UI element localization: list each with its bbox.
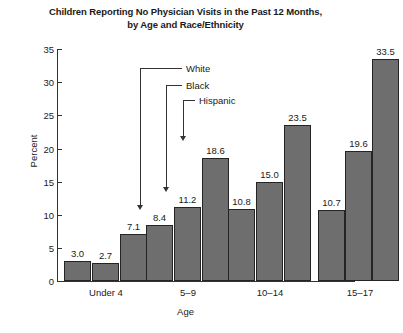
x-category-label-10-14: 10–14 [230,287,310,298]
bar-5-9-black [174,207,201,281]
bar-value-15-17-hispanic: 33.5 [367,46,403,57]
chart-title: Children Reporting No Physician Visits i… [0,5,371,31]
bar-value-5-9-white: 8.4 [141,212,178,223]
x-category-label-15-17: 15–17 [320,287,400,298]
annotation-arrow-white [137,205,143,210]
bar-5-9-white [146,225,173,281]
y-tick-label-0: 0 [28,276,54,287]
bar-10-14-white [228,209,255,281]
chart-title-line-1: Children Reporting No Physician Visits i… [0,5,371,18]
bar-value-10-14-black: 15.0 [251,169,288,180]
annotation-line-white-horizontal [140,68,182,69]
y-tick-label-5: 5 [28,243,54,254]
x-axis-title: Age [0,306,371,317]
y-tick-label-30: 30 [28,77,54,88]
bar-value-under4-black: 2.7 [87,250,124,261]
y-tick-mark-10 [58,215,62,216]
legend-label-black: Black [186,80,209,91]
y-tick-mark-15 [58,182,62,183]
annotation-line-black-vertical [166,85,167,189]
bar-under4-hispanic [120,234,147,281]
annotation-line-black-horizontal [166,85,182,86]
y-tick-label-35: 35 [28,44,54,55]
bar-15-17-hispanic [372,59,399,281]
y-tick-label-10: 10 [28,210,54,221]
bar-under4-white [64,261,91,281]
y-tick-mark-20 [58,149,62,150]
bar-value-5-9-hispanic: 18.6 [197,145,234,156]
x-category-label-under-4: Under 4 [66,287,146,298]
legend-label-white: White [186,63,210,74]
bar-value-10-14-white: 10.8 [223,196,260,207]
y-tick-label-20: 20 [28,144,54,155]
bar-10-14-black [256,182,283,281]
y-tick-mark-25 [58,115,62,116]
y-tick-mark-35 [58,49,62,50]
y-tick-mark-30 [58,82,62,83]
bar-15-17-white [318,210,345,281]
legend-label-hispanic: Hispanic [199,95,235,106]
bar-10-14-hispanic [284,125,311,281]
bar-5-9-hispanic [202,158,229,281]
annotation-line-white-vertical [140,68,141,207]
bar-value-5-9-black: 11.2 [169,194,206,205]
x-axis-line [57,281,355,282]
annotation-arrow-black [163,187,169,192]
annotation-line-hispanic-vertical [183,100,184,138]
bar-15-17-black [345,151,372,281]
y-tick-label-15: 15 [28,177,54,188]
bar-value-10-14-hispanic: 23.5 [279,112,316,123]
chart-title-line-2: by Age and Race/Ethnicity [0,18,371,31]
y-tick-label-25: 25 [28,110,54,121]
annotation-line-hispanic-horizontal [183,100,195,101]
annotation-arrow-hispanic [180,136,186,141]
x-category-label-5-9: 5–9 [148,287,228,298]
bar-under4-black [92,263,119,281]
